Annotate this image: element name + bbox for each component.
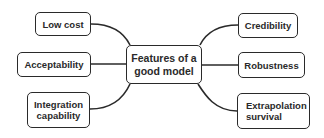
node-central-topic: Features of a good model	[126, 45, 202, 84]
node-label: Extrapolation survival	[246, 100, 309, 122]
node-robustness: Robustness	[238, 52, 305, 78]
node-label: Low cost	[42, 19, 83, 30]
link-integration	[90, 84, 130, 109]
node-acceptability: Acceptability	[17, 52, 91, 77]
node-integration-capability: Integration capability	[27, 92, 90, 128]
node-low-cost: Low cost	[35, 12, 91, 36]
node-label: Robustness	[244, 60, 298, 71]
node-label: Credibility	[245, 20, 291, 31]
link-low-cost	[91, 24, 130, 45]
node-label: Integration capability	[28, 99, 89, 121]
node-extrapolation-survival: Extrapolation survival	[237, 93, 310, 129]
link-extrapolation	[198, 84, 237, 111]
link-credibility	[200, 25, 238, 45]
central-topic-label: Features of a good model	[127, 52, 201, 78]
node-credibility: Credibility	[238, 13, 298, 38]
node-label: Acceptability	[24, 59, 83, 70]
